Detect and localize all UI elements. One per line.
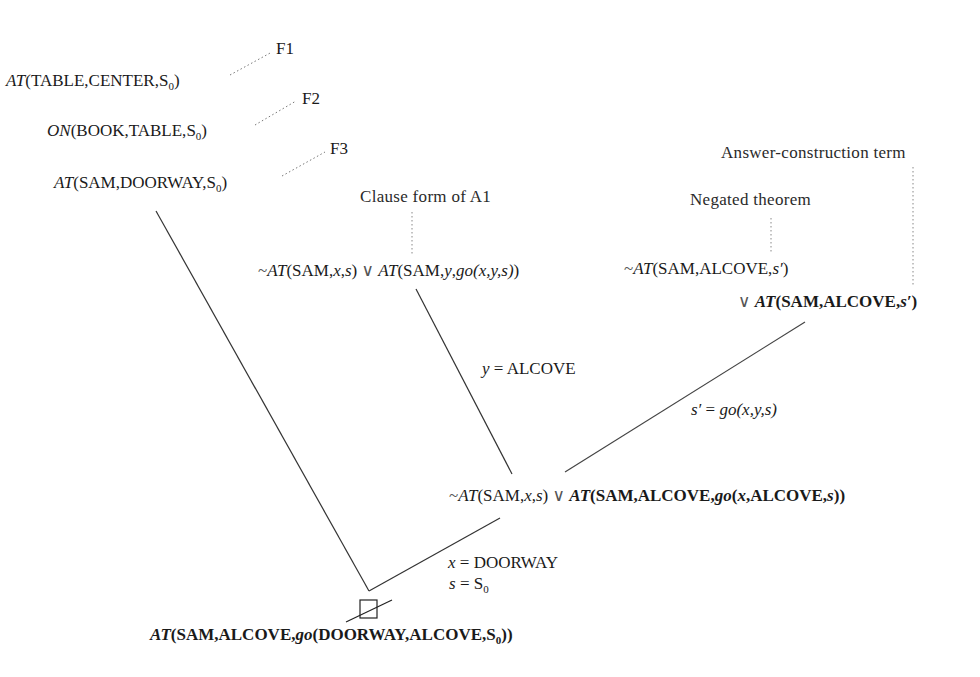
f2-args: BOOK,TABLE, [76, 121, 186, 140]
tree-edges [0, 0, 980, 677]
or-symbol: ∨ [553, 486, 565, 505]
res-ans-fn: go [715, 486, 732, 505]
res-s: s [536, 486, 543, 505]
subst-x-var: x [448, 553, 456, 572]
a1-lit2-open: (SAM, [397, 261, 444, 280]
final-answer: AT(SAM,ALCOVE,go(DOORWAY,ALCOVE,S0)) [150, 626, 513, 646]
res-ans-s: s [827, 486, 834, 505]
or-symbol: ∨ [362, 261, 374, 280]
a1-lit2-pred: AT [378, 261, 397, 280]
negation-symbol: ~ [624, 259, 633, 278]
subst-y-val: ALCOVE [507, 359, 576, 378]
res-ans-close: )) [834, 486, 845, 505]
res-ans-open: (SAM,ALCOVE, [590, 486, 715, 505]
f2-state: S [186, 121, 195, 140]
negation-symbol: ~ [449, 486, 458, 505]
fact-f3-label: F3 [330, 140, 348, 157]
answer-close: )) [501, 625, 512, 644]
empty-clause-strike [346, 600, 392, 622]
res-ans-pred: AT [569, 486, 590, 505]
or-symbol: ∨ [738, 292, 750, 311]
resolvent-clause: ~AT(SAM,x,s) ∨ AT(SAM,ALCOVE,go(x,ALCOVE… [449, 487, 845, 504]
f1-state-sub: 0 [168, 80, 174, 92]
a1-lit1-pred: AT [267, 261, 286, 280]
answer-state: S [486, 625, 495, 644]
ans-close: ) [912, 292, 918, 311]
f2-leader [255, 101, 296, 125]
f3-pred: AT [54, 173, 73, 192]
negated-theorem-clause: ~AT(SAM,ALCOVE,s′) [624, 260, 788, 277]
subst-y-eq: = [490, 359, 507, 378]
a1-close: ) [352, 261, 358, 280]
answer-pred: AT [150, 625, 171, 644]
ans-args: (SAM,ALCOVE, [776, 292, 901, 311]
f2-state-sub: 0 [196, 130, 202, 142]
neg-close: ) [783, 259, 789, 278]
answer-args: (DOORWAY,ALCOVE, [312, 625, 486, 644]
answer-term-annotation: Answer-construction term [721, 144, 906, 161]
res-ans-x: x [737, 486, 746, 505]
f1-pred: AT [6, 71, 25, 90]
f1-state: S [159, 71, 168, 90]
subst-s: s = S0 [449, 575, 489, 595]
f1-leader [230, 52, 272, 75]
a1-var-x: x [333, 261, 341, 280]
subst-sp-var: s′ [691, 400, 701, 419]
fact-f1-label: F1 [276, 40, 294, 57]
f3-state-sub: 0 [216, 182, 222, 194]
subst-sp-eq: = [701, 400, 719, 419]
edge-neg-to-resolvent [565, 322, 805, 472]
subst-x: x = DOORWAY [448, 554, 558, 571]
f2-pred: ON [47, 121, 71, 140]
ans-pred: AT [755, 292, 776, 311]
neg-args: (SAM,ALCOVE, [652, 259, 772, 278]
subst-sp-fn: go [719, 400, 736, 419]
res-close: ) [543, 486, 549, 505]
f3-args: SAM,DOORWAY, [79, 173, 207, 192]
subst-s-var: s [449, 574, 456, 593]
subst-x-val: DOORWAY [474, 553, 558, 572]
a1-var-s: s [345, 261, 352, 280]
neg-pred: AT [633, 259, 652, 278]
a1-var-y: y [444, 261, 452, 280]
res-ans-mid: ,ALCOVE, [746, 486, 827, 505]
subst-s-val: S [474, 574, 483, 593]
subst-y: y = ALCOVE [482, 360, 576, 377]
subst-s-eq: = [456, 574, 474, 593]
res-pred: AT [458, 486, 477, 505]
negation-symbol: ~ [258, 261, 267, 280]
answer-fn: go [295, 625, 312, 644]
negated-theorem-annotation: Negated theorem [690, 191, 811, 208]
a1-lit1-open: (SAM, [286, 261, 333, 280]
subst-sp-args: (x,y,s) [736, 400, 777, 419]
a1-go-args: (x,y,s) [473, 261, 514, 280]
ans-var: s′ [900, 292, 911, 311]
subst-s-prime: s′ = go(x,y,s) [691, 401, 777, 418]
fact-f1: AT(TABLE,CENTER,S0) [6, 72, 180, 92]
res-x: x [524, 486, 532, 505]
f3-leader [282, 152, 325, 176]
f1-args: TABLE,CENTER, [31, 71, 159, 90]
answer-literal: ∨ AT(SAM,ALCOVE,s′) [738, 293, 917, 310]
fact-f3: AT(SAM,DOORWAY,S0) [54, 174, 227, 194]
clause-a1: ~AT(SAM,x,s) ∨ AT(SAM,y,go(x,y,s)) [258, 262, 519, 279]
a1-close2: ) [514, 261, 520, 280]
f3-state: S [206, 173, 215, 192]
res-open: (SAM, [477, 486, 524, 505]
subst-x-eq: = [456, 553, 474, 572]
answer-open: (SAM,ALCOVE, [171, 625, 296, 644]
fact-f2-label: F2 [302, 90, 320, 107]
subst-s-val-sub: 0 [483, 583, 489, 595]
fact-f2: ON(BOOK,TABLE,S0) [47, 122, 207, 142]
neg-var: s′ [772, 259, 782, 278]
subst-y-var: y [482, 359, 490, 378]
edge-a1-to-resolvent [416, 289, 512, 474]
clause-form-annotation: Clause form of A1 [360, 188, 491, 205]
a1-go-fn: go [456, 261, 473, 280]
